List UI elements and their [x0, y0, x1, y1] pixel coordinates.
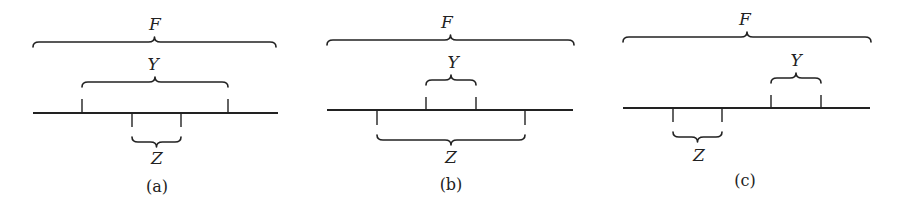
- y-label: Y: [447, 52, 460, 72]
- z-label: Z: [692, 145, 706, 165]
- z-brace: [673, 132, 722, 142]
- z-brace: [132, 137, 181, 147]
- set-diagram-canvas: F Y Z (a) F Y Z (b) F Y Z (c): [0, 0, 898, 207]
- panel-b: F Y Z (b): [327, 12, 574, 194]
- panel-caption: (c): [734, 171, 755, 190]
- y-brace: [771, 73, 821, 83]
- panel-a: F Y Z (a): [33, 14, 278, 196]
- panel-caption: (b): [440, 175, 463, 194]
- y-brace: [82, 77, 228, 87]
- panel-caption: (a): [146, 177, 168, 196]
- y-label: Y: [790, 50, 803, 70]
- f-label: F: [148, 14, 162, 34]
- y-brace: [426, 75, 476, 85]
- panel-c: F Y Z (c): [623, 9, 871, 190]
- f-brace: [623, 32, 871, 42]
- f-brace: [33, 37, 276, 47]
- f-label: F: [738, 9, 752, 29]
- z-label: Z: [150, 148, 164, 168]
- z-brace: [377, 135, 525, 145]
- y-label: Y: [147, 54, 160, 74]
- f-label: F: [440, 12, 454, 32]
- z-label: Z: [444, 147, 458, 167]
- f-brace: [327, 35, 574, 45]
